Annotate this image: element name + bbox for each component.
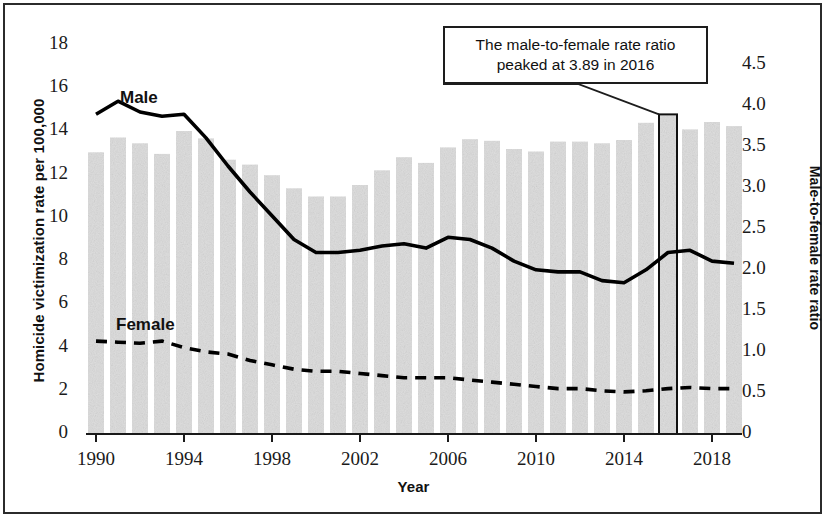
bar (110, 138, 126, 435)
bar (506, 149, 522, 434)
y-tick-label-right: 2.0 (742, 257, 788, 279)
y-tick-label-right: 1.0 (742, 339, 788, 361)
bar (528, 152, 544, 435)
x-tick-label: 2002 (325, 448, 395, 470)
y-tick-label-left: 4 (28, 335, 68, 357)
x-tick-label: 2014 (589, 448, 659, 470)
bar (198, 138, 214, 434)
y-tick-label-left: 8 (28, 248, 68, 270)
x-tick-label: 2018 (677, 448, 747, 470)
y-tick-label-right: 0.5 (742, 380, 788, 402)
y-tick-label-left: 2 (28, 378, 68, 400)
y-tick-label-left: 12 (28, 162, 68, 184)
bar (638, 123, 654, 434)
x-tick-label: 2006 (413, 448, 483, 470)
y-tick-label-right: 4.0 (742, 93, 788, 115)
callout-connector (443, 84, 659, 114)
y-tick-label-left: 0 (28, 421, 68, 443)
callout-leader-line (443, 84, 659, 114)
bar (418, 163, 434, 434)
y-tick-label-left: 14 (28, 118, 68, 140)
bar (242, 165, 258, 434)
axes-layer (86, 434, 742, 442)
series-label-male: Male (120, 88, 158, 107)
x-tick-label: 1994 (149, 448, 219, 470)
bar (176, 131, 192, 434)
bar (132, 143, 148, 434)
y-tick-label-left: 16 (28, 75, 68, 97)
bar (396, 157, 412, 434)
chart-canvas: MaleFemale (0, 0, 827, 519)
bars-layer (88, 114, 742, 434)
chart-page: Homicide victimization rate per 100,000 … (0, 0, 827, 519)
bar (352, 185, 368, 434)
bar (154, 154, 170, 434)
bar (330, 197, 346, 435)
x-tick-label: 2010 (501, 448, 571, 470)
y-tick-label-right: 2.5 (742, 216, 788, 238)
bar (220, 160, 236, 434)
y-tick-label-right: 1.5 (742, 298, 788, 320)
y-tick-label-right: 0 (742, 421, 788, 443)
y-tick-label-right: 3.0 (742, 175, 788, 197)
bar-highlight-2016 (660, 115, 676, 434)
bar (88, 152, 104, 434)
bar (484, 141, 500, 434)
x-tick-label: 1990 (61, 448, 131, 470)
y-tick-label-left: 6 (28, 291, 68, 313)
bar (462, 139, 478, 434)
y-tick-label-right: 3.5 (742, 134, 788, 156)
y-tick-label-right: 4.5 (742, 52, 788, 74)
bar (308, 197, 324, 435)
bar (286, 188, 302, 434)
series-label-female: Female (116, 315, 175, 334)
y-tick-label-left: 18 (28, 32, 68, 54)
bar (374, 170, 390, 434)
y-tick-label-left: 10 (28, 205, 68, 227)
bar (440, 147, 456, 434)
x-tick-label: 1998 (237, 448, 307, 470)
